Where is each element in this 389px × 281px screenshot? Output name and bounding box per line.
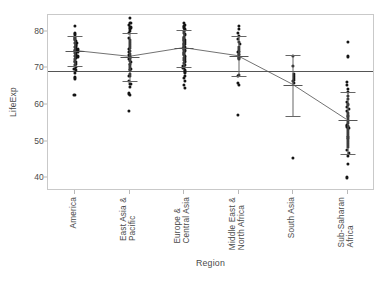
x-axis-title: Region bbox=[47, 258, 374, 268]
plot-area bbox=[47, 14, 374, 190]
x-axis-tick-label: Sub-SaharanAfrica bbox=[338, 197, 355, 247]
x-axis-tick-mark bbox=[238, 190, 239, 194]
chart-root: LifeExp 4050607080 AmericaEast Asia &Pac… bbox=[0, 0, 389, 281]
group-mean-connecting-line bbox=[48, 15, 373, 189]
group-mean-bar bbox=[120, 57, 139, 58]
group-mean-bar bbox=[66, 51, 85, 52]
data-point bbox=[345, 83, 348, 86]
x-axis-tick-label-line: America bbox=[70, 197, 78, 228]
confidence-interval-lower-cap bbox=[122, 81, 137, 82]
data-point bbox=[129, 85, 132, 88]
x-axis-tick-mark bbox=[74, 190, 75, 194]
x-axis-tick-label: Middle East &North Africa bbox=[229, 197, 246, 250]
x-axis-tick-label-line: North Africa bbox=[238, 197, 246, 250]
data-point bbox=[347, 162, 350, 165]
data-point bbox=[127, 109, 130, 112]
x-axis-tick-mark bbox=[129, 190, 130, 194]
data-point bbox=[347, 41, 350, 44]
data-point bbox=[128, 94, 131, 97]
group-mean-bar bbox=[284, 85, 303, 86]
x-axis-tick-label: Europe &Central Asia bbox=[175, 197, 192, 244]
data-point bbox=[238, 83, 241, 86]
x-axis-tick-label-line: Central Asia bbox=[184, 197, 192, 244]
grand-mean-line bbox=[48, 71, 373, 72]
confidence-interval-upper-cap bbox=[177, 30, 192, 31]
data-point bbox=[346, 176, 349, 179]
group-mean-bar bbox=[175, 48, 194, 49]
confidence-interval-lower-cap bbox=[68, 66, 83, 67]
confidence-interval-lower-cap bbox=[231, 76, 246, 77]
x-axis-tick-label-line: Pacific bbox=[129, 197, 137, 241]
confidence-interval-upper-cap bbox=[286, 55, 301, 56]
data-point bbox=[74, 77, 77, 80]
x-axis-tick-label-line: South Asia bbox=[288, 197, 296, 238]
confidence-interval-upper-cap bbox=[68, 36, 83, 37]
x-axis-tick-label: South Asia bbox=[288, 197, 296, 238]
data-point bbox=[183, 86, 186, 89]
x-axis-tick-mark bbox=[183, 190, 184, 194]
x-axis-tick-label-line: Sub-Saharan bbox=[338, 197, 346, 247]
data-point bbox=[237, 27, 240, 30]
confidence-interval-upper-cap bbox=[231, 36, 246, 37]
x-axis-tick-label-line: Africa bbox=[347, 197, 355, 247]
y-axis: 4050607080 bbox=[0, 14, 47, 190]
x-axis-tick-label: East Asia &Pacific bbox=[120, 197, 137, 241]
data-point bbox=[129, 17, 132, 20]
x-axis-tick-mark bbox=[347, 190, 348, 194]
x-axis-tick-label: America bbox=[70, 197, 78, 228]
data-point bbox=[291, 156, 294, 159]
data-point bbox=[73, 25, 76, 28]
data-point bbox=[236, 113, 239, 116]
data-point bbox=[183, 79, 186, 82]
data-point bbox=[73, 94, 76, 97]
confidence-interval-lower-cap bbox=[286, 116, 301, 117]
confidence-interval-lower-cap bbox=[177, 67, 192, 68]
confidence-interval-upper-cap bbox=[340, 92, 355, 93]
group-mean-bar bbox=[229, 56, 248, 57]
confidence-interval-stem bbox=[347, 92, 348, 155]
x-axis: AmericaEast Asia &PacificEurope &Central… bbox=[47, 190, 374, 260]
data-point bbox=[346, 55, 349, 58]
confidence-interval-lower-cap bbox=[340, 154, 355, 155]
x-axis-tick-label-line: Middle East & bbox=[229, 197, 237, 250]
x-axis-tick-label-line: East Asia & bbox=[120, 197, 128, 241]
data-point bbox=[74, 71, 77, 74]
confidence-interval-upper-cap bbox=[122, 33, 137, 34]
group-mean-bar bbox=[338, 120, 357, 121]
x-axis-tick-mark bbox=[292, 190, 293, 194]
